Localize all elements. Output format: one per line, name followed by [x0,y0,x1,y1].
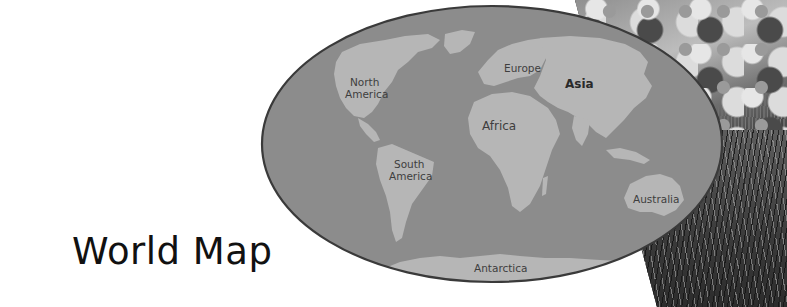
label-asia: Asia [565,77,594,91]
label-antarctica: Antarctica [474,262,528,274]
label-europe: Europe [504,62,541,74]
label-south-america-1: South [394,158,425,170]
label-north-america-2: America [345,88,388,100]
label-south-america-2: America [389,170,432,182]
label-africa: Africa [482,119,516,133]
label-australia: Australia [633,193,679,205]
label-north-america-1: North [350,76,379,88]
page-title: World Map [72,230,272,273]
